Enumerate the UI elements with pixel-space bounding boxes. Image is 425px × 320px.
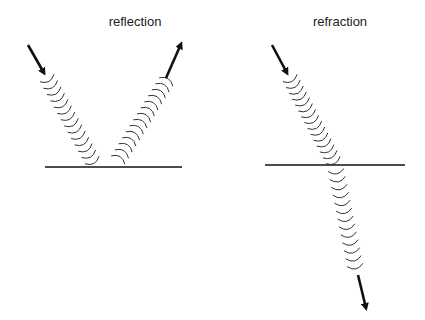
incident-wavefront <box>57 106 71 114</box>
reflected-wavefront <box>130 125 144 134</box>
reflected-wavefront <box>133 119 147 128</box>
wave-diagram <box>0 0 425 320</box>
incident-arrow-icon <box>272 45 287 73</box>
refracted-wavefront <box>335 200 351 206</box>
reflected-wavefront <box>141 107 155 116</box>
incident-wavefront <box>43 81 57 89</box>
incident-wavefront <box>75 137 89 145</box>
refracted-arrow-icon <box>358 275 366 308</box>
reflected-wavefront <box>144 101 158 110</box>
incident-wavefront <box>50 93 64 101</box>
reflected-wavefront <box>137 113 151 122</box>
incident-wavefront <box>283 74 297 82</box>
reflected-wavefront <box>159 77 173 86</box>
reflection-panel <box>28 44 182 167</box>
reflected-wavefront <box>156 83 170 92</box>
incident-arrow-icon <box>28 45 44 73</box>
refracted-wavefront <box>341 232 357 238</box>
refracted-wavefront <box>331 184 347 190</box>
incident-wavefront <box>314 133 328 141</box>
refracted-wavefront <box>346 256 362 262</box>
reflected-wavefront <box>148 95 162 104</box>
reflected-arrow-icon <box>166 44 181 78</box>
refracted-wavefront <box>338 216 354 222</box>
incident-wavefront <box>68 125 82 133</box>
incident-wavefront <box>40 74 54 82</box>
reflected-wavefront <box>122 137 136 146</box>
refracted-wavefront <box>342 240 358 246</box>
refracted-wavefront <box>339 224 355 230</box>
incident-wavefront <box>298 104 312 112</box>
refracted-wavefront <box>328 168 344 174</box>
refracted-wavefront <box>347 263 363 269</box>
reflected-wavefront <box>152 89 166 98</box>
refracted-wavefront <box>333 192 349 198</box>
refracted-wavefront <box>344 248 360 254</box>
refracted-wavefront <box>336 208 352 214</box>
incident-wavefront <box>326 156 340 164</box>
incident-wavefront <box>64 118 78 126</box>
reflected-wavefront <box>126 131 140 140</box>
reflected-wavefront <box>115 149 129 158</box>
incident-wavefront <box>61 112 75 120</box>
incident-wavefront <box>71 131 85 139</box>
reflected-wavefront <box>111 155 125 164</box>
incident-wavefront <box>292 92 306 100</box>
refraction-panel <box>265 45 405 308</box>
refracted-wavefront <box>330 176 346 182</box>
incident-wavefront <box>47 87 61 95</box>
incident-wavefront <box>85 156 99 164</box>
incident-wavefront <box>54 99 68 107</box>
reflected-wavefront <box>119 143 133 152</box>
incident-wavefront <box>78 144 92 152</box>
incident-wavefront <box>82 150 96 158</box>
incident-wavefront <box>304 115 318 123</box>
incident-wavefront <box>320 145 334 153</box>
